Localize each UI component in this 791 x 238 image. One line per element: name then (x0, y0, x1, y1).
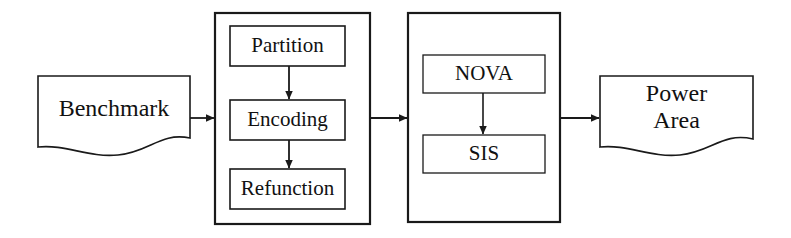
right-container-box (408, 13, 560, 222)
encoding-label: Encoding (230, 108, 345, 132)
benchmark-label: Benchmark (38, 95, 190, 122)
flowchart-diagram: Benchmark Partition Encoding Refunction … (0, 0, 791, 238)
sis-label: SIS (423, 142, 545, 166)
partition-label: Partition (230, 34, 345, 58)
refunction-label: Refunction (230, 177, 345, 201)
power-area-label: Power Area (600, 80, 753, 134)
nova-label: NOVA (423, 62, 545, 86)
